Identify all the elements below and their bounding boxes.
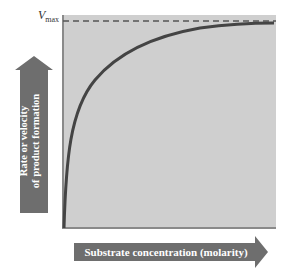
vmax-label: Vmax [38,8,59,24]
saturation-curve [64,23,274,228]
y-axis-label: Rate or velocity of product formation [18,66,48,216]
y-axis-label-line1: Rate or velocity [18,66,30,216]
y-axis-label-line2: of product formation [30,66,42,216]
x-axis-label: Substrate concentration (molarity) [74,243,258,261]
